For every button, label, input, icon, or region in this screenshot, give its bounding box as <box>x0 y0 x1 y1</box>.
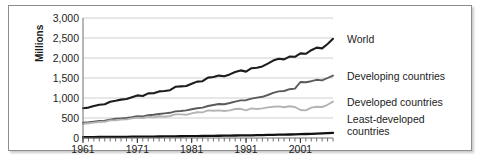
y-tick-label: 1,000 <box>53 92 79 104</box>
x-tick-label: 1991 <box>234 143 257 155</box>
y-tick-label: 2,500 <box>53 32 79 44</box>
gridlines <box>83 18 333 118</box>
legend-entry-0: World <box>347 33 374 45</box>
plot-area: 05001,0001,5002,0002,5003,000 1961197119… <box>83 18 333 138</box>
y-tick-label: 500 <box>61 112 79 124</box>
legend-entry-2: Developed countries <box>347 96 443 108</box>
y-tick-label: 1,500 <box>53 72 79 84</box>
chart-frame: Yield (kg /ha) Millions 05001,0001,5002,… <box>8 5 472 151</box>
chart-legend: WorldDeveloping countriesDeveloped count… <box>347 18 475 138</box>
series-line-2 <box>83 102 333 124</box>
legend-entry-1: Developing countries <box>347 70 445 82</box>
plot-canvas <box>83 18 333 138</box>
y-tick-label: 2,000 <box>53 52 79 64</box>
y-axis-unit-label: Millions <box>34 2 46 62</box>
data-series-group <box>83 39 333 137</box>
x-tick-label: 1961 <box>71 143 94 155</box>
y-tick-label: 3,000 <box>53 12 79 24</box>
x-tick-label: 2001 <box>289 143 312 155</box>
series-line-3 <box>83 133 333 137</box>
legend-entry-3: Least-developed countries <box>347 113 425 137</box>
x-axis-minor-ticks <box>83 138 333 142</box>
chart-figure: Yield (kg /ha) Millions 05001,0001,5002,… <box>0 0 484 163</box>
x-tick-label: 1971 <box>126 143 149 155</box>
x-tick-label: 1981 <box>180 143 203 155</box>
